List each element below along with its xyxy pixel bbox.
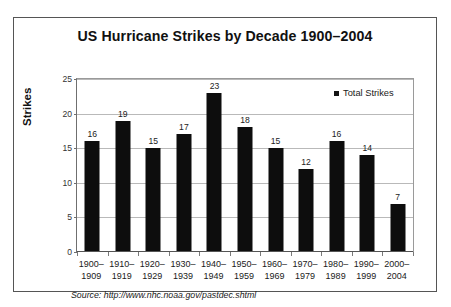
plot-area: 0510152025 161915172318151216147 xyxy=(76,78,414,252)
bar-value-label: 15 xyxy=(271,136,281,146)
bar[interactable] xyxy=(360,155,375,252)
x-tick-label-line: 1960– xyxy=(262,259,287,271)
x-tick-mark xyxy=(199,252,200,256)
x-tick-label-line: 1969 xyxy=(262,271,287,283)
x-tick-label-line: 1949 xyxy=(201,271,226,283)
x-tick-label: 1900–1909 xyxy=(79,259,104,282)
x-tick-label-line: 1950– xyxy=(231,259,256,271)
bar-value-label: 23 xyxy=(210,81,220,91)
y-tick-label: 20 xyxy=(62,109,72,119)
bar-group[interactable]: 19 xyxy=(108,79,139,252)
bar[interactable] xyxy=(237,127,252,252)
x-tick-label: 1970–1979 xyxy=(293,259,318,282)
bar-group[interactable]: 17 xyxy=(169,79,200,252)
x-tick-label-line: 1989 xyxy=(323,271,348,283)
bar-group[interactable]: 15 xyxy=(260,79,291,252)
plot-inner: 0510152025 161915172318151216147 xyxy=(77,79,413,252)
bar[interactable] xyxy=(207,93,222,252)
x-tick-label-line: 1980– xyxy=(323,259,348,271)
x-tick-label-line: 1939 xyxy=(170,271,195,283)
x-tick-mark xyxy=(291,252,292,256)
x-tick-label: 1960–1969 xyxy=(262,259,287,282)
source-note: Source: http://www.nhc.noaa.gov/pastdec.… xyxy=(71,290,256,300)
y-tick-label: 10 xyxy=(62,178,72,188)
bar-group[interactable]: 16 xyxy=(321,79,352,252)
x-tick-label: 1930–1939 xyxy=(170,259,195,282)
x-tick-label-line: 1999 xyxy=(354,271,379,283)
y-tick-label: 5 xyxy=(67,212,72,222)
bar[interactable] xyxy=(146,148,161,252)
bar-value-label: 7 xyxy=(395,192,400,202)
x-tick-label-line: 1930– xyxy=(170,259,195,271)
x-tick-mark xyxy=(321,252,322,256)
x-tick-label-line: 1990– xyxy=(354,259,379,271)
x-tick-mark xyxy=(138,252,139,256)
x-tick-label-line: 1959 xyxy=(231,271,256,283)
x-tick-label-line: 1940– xyxy=(201,259,226,271)
bar-group[interactable]: 23 xyxy=(199,79,230,252)
bar-group[interactable]: 7 xyxy=(382,79,413,252)
x-tick-label-line: 1979 xyxy=(293,271,318,283)
x-tick-label-line: 1909 xyxy=(79,271,104,283)
x-tick-label-line: 1929 xyxy=(140,271,165,283)
bar[interactable] xyxy=(390,204,405,252)
x-tick-label: 1940–1949 xyxy=(201,259,226,282)
bar-value-label: 19 xyxy=(118,109,128,119)
bar-group[interactable]: 14 xyxy=(352,79,383,252)
bar-group[interactable]: 18 xyxy=(230,79,261,252)
x-tick-label-line: 1919 xyxy=(109,271,134,283)
x-tick-mark xyxy=(169,252,170,256)
x-tick-label: 1950–1959 xyxy=(231,259,256,282)
x-tick-label: 2000–2004 xyxy=(384,259,409,282)
bar-value-label: 14 xyxy=(362,143,372,153)
legend-square-marker-icon xyxy=(334,91,339,96)
x-tick-mark xyxy=(77,252,78,256)
bar-value-label: 12 xyxy=(301,157,311,167)
bar-group[interactable]: 12 xyxy=(291,79,322,252)
x-tick-label: 1990–1999 xyxy=(354,259,379,282)
x-axis-baseline xyxy=(77,251,413,252)
bar[interactable] xyxy=(85,141,100,252)
x-tick-label-line: 1900– xyxy=(79,259,104,271)
x-tick-label: 1980–1989 xyxy=(323,259,348,282)
x-tick-mark xyxy=(413,252,414,256)
bar[interactable] xyxy=(329,141,344,252)
x-tick-label-line: 1970– xyxy=(293,259,318,271)
bar-value-label: 15 xyxy=(149,136,159,146)
bar[interactable] xyxy=(268,148,283,252)
x-tick-mark xyxy=(230,252,231,256)
bar-group[interactable]: 16 xyxy=(77,79,108,252)
x-tick-mark xyxy=(260,252,261,256)
chart-title: US Hurricane Strikes by Decade 1900–2004 xyxy=(14,28,436,44)
bar[interactable] xyxy=(115,121,130,252)
bar-group[interactable]: 15 xyxy=(138,79,169,252)
x-tick-label-line: 1910– xyxy=(109,259,134,271)
x-tick-label-line: 1920– xyxy=(140,259,165,271)
y-tick-label: 15 xyxy=(62,143,72,153)
x-tick-label-line: 2000– xyxy=(384,259,409,271)
y-tick-label: 25 xyxy=(62,74,72,84)
bar-value-label: 16 xyxy=(332,129,342,139)
bar-value-label: 16 xyxy=(87,129,97,139)
bar-value-label: 17 xyxy=(179,122,189,132)
x-tick-label-line: 2004 xyxy=(384,271,409,283)
y-tick-label: 0 xyxy=(67,247,72,257)
x-tick-label: 1920–1929 xyxy=(140,259,165,282)
x-tick-label: 1910–1919 xyxy=(109,259,134,282)
figure-frame: US Hurricane Strikes by Decade 1900–2004… xyxy=(13,17,437,292)
x-tick-mark xyxy=(382,252,383,256)
bar-value-label: 18 xyxy=(240,115,250,125)
chart-legend: Total Strikes xyxy=(334,88,394,98)
x-tick-mark xyxy=(108,252,109,256)
y-axis-title: Strikes xyxy=(21,88,33,126)
x-tick-mark xyxy=(352,252,353,256)
legend-label: Total Strikes xyxy=(343,88,394,98)
bar[interactable] xyxy=(299,169,314,252)
bar[interactable] xyxy=(176,134,191,252)
